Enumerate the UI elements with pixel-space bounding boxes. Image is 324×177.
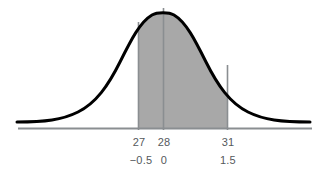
shaded-area-region — [138, 0, 227, 129]
shaded-area-group — [138, 0, 227, 129]
normal-distribution-figure: 27 28 31 −0.5 0 1.5 — [0, 0, 324, 177]
distribution-plot — [0, 0, 324, 177]
